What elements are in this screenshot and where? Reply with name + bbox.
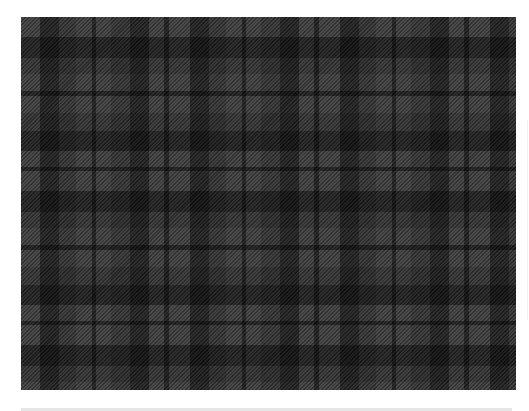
right-edge-line [527, 120, 528, 320]
tartan-fabric-image [21, 17, 516, 390]
page: grey and black tartan plaid fabric [0, 0, 529, 411]
twill-texture [21, 17, 516, 390]
